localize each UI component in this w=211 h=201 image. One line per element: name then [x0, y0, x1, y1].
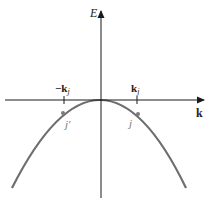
point-j	[136, 112, 140, 116]
point-label-j: j	[127, 117, 132, 129]
point-label-j-prime: j′	[63, 118, 71, 130]
band-diagram: E k −kj kj j′ j	[0, 0, 211, 201]
dispersion-curve	[12, 100, 186, 188]
energy-axis-label: E	[89, 6, 98, 20]
point-j-prime	[61, 111, 65, 115]
tick-label-minus-kj: −kj	[55, 82, 70, 96]
tick-label-plus-kj: kj	[131, 82, 140, 96]
k-axis-label: k	[196, 106, 203, 120]
